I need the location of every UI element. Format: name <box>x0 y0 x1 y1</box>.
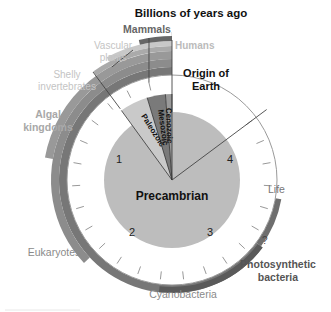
cenozoic-label: Cenozoic <box>164 108 174 144</box>
mammals-label: Mammals <box>123 23 171 35</box>
eukaryotes-label: Eukaryotes <box>28 246 81 258</box>
cyanobacteria-label: Cyanobacteria <box>149 288 217 300</box>
diagram-title: Billions of years ago <box>135 7 247 19</box>
photosynthetic-bacteria-label-line2: bacteria <box>258 271 298 283</box>
shelly-invertebrates-label-line2: invertebrates <box>38 81 96 92</box>
origin-label-line2: Earth <box>192 80 220 92</box>
origin-label-line1: Origin of <box>183 67 229 79</box>
tick-number-3: 3 <box>207 226 213 238</box>
humans-label: Humans <box>175 40 215 51</box>
shelly-invertebrates-label-line1: Shelly <box>53 69 80 80</box>
algal-kingdoms-label-line2: kingdoms <box>23 121 73 133</box>
tick-number-1: 1 <box>116 153 122 165</box>
photosynthetic-bacteria-label-line1: Photosynthetic <box>240 258 316 270</box>
tick-number-2: 2 <box>129 226 135 238</box>
vascular-plants-label-line1: Vascular <box>94 40 133 51</box>
tick-number-4: 4 <box>227 153 233 165</box>
question-mark: ? <box>262 235 268 246</box>
algal-kingdoms-label-line1: Algal <box>35 108 61 120</box>
precambrian-label: Precambrian <box>136 189 209 203</box>
geologic-clock-diagram: Billions of years ago 1 2 3 4 Precambria… <box>0 0 331 312</box>
life-label: Life <box>268 183 285 195</box>
vascular-plants-label-line2: plants <box>100 52 127 63</box>
